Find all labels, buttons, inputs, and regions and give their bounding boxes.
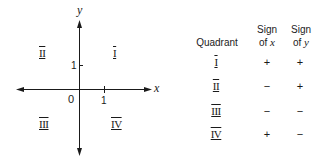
- x-axis-right-arrow-icon: [144, 87, 152, 92]
- header-sign-y: Sign of y: [286, 24, 316, 49]
- y-tick-label: 1: [71, 60, 77, 71]
- y-axis-label: y: [77, 5, 82, 16]
- row-sign-y: +: [290, 81, 310, 92]
- row-sign-y: −: [290, 106, 310, 117]
- quadrant-label-2: II: [39, 48, 45, 59]
- header-sign-x: Sign of x: [252, 24, 282, 49]
- header-sign-y-line1: Sign: [286, 24, 316, 36]
- quadrant-label-4: IV: [111, 119, 122, 130]
- row-quadrant: II: [201, 81, 231, 92]
- origin-label: 0: [68, 94, 74, 105]
- y-axis-up-arrow-icon: [77, 20, 82, 28]
- row-sign-x: +: [257, 129, 277, 140]
- row-sign-y: −: [290, 129, 310, 140]
- x-axis-label: x: [154, 83, 159, 94]
- coordinate-plane: [0, 0, 170, 163]
- header-sign-x-var: x: [270, 36, 275, 48]
- row-sign-y: +: [290, 57, 310, 68]
- x-tick-label: 1: [101, 95, 107, 106]
- row-quadrant: IV: [201, 129, 231, 140]
- header-quadrant: Quadrant: [192, 37, 242, 49]
- row-quadrant: III: [201, 106, 231, 117]
- row-quadrant: I: [201, 57, 231, 68]
- quadrant-label-1: I: [113, 48, 116, 59]
- header-sign-y-var: y: [304, 36, 309, 48]
- y-axis-down-arrow-icon: [77, 148, 82, 156]
- x-axis-left-arrow-icon: [16, 87, 24, 92]
- header-sign-y-line2: of y: [286, 36, 316, 49]
- header-sign-x-line2: of x: [252, 36, 282, 49]
- quadrant-label-3: III: [39, 119, 49, 130]
- row-sign-x: −: [257, 81, 277, 92]
- header-sign-x-line1: Sign: [252, 24, 282, 36]
- row-sign-x: +: [257, 57, 277, 68]
- row-sign-x: −: [257, 106, 277, 117]
